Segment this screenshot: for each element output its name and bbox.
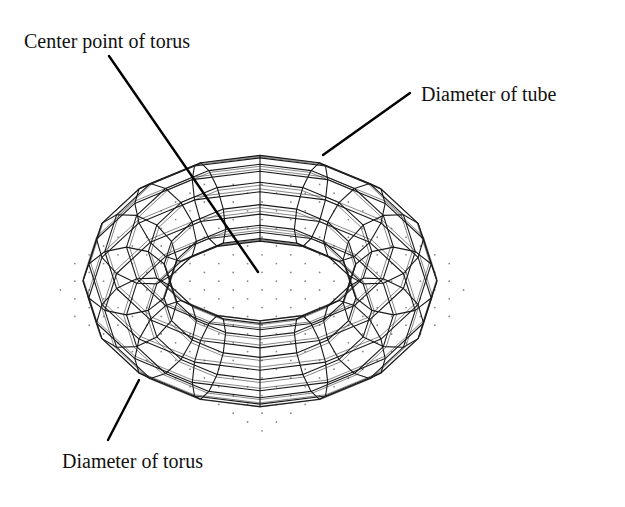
torus-diameter-leader-line <box>108 380 139 440</box>
tube-diameter-leader-line <box>323 93 410 155</box>
tube-diameter-label: Diameter of tube <box>421 84 557 104</box>
torus-diagram <box>0 0 625 507</box>
torus-wireframe <box>83 155 437 407</box>
center-point-leader-line <box>109 56 258 272</box>
torus-diameter-label: Diameter of torus <box>62 451 203 471</box>
center-point-label: Center point of torus <box>24 31 190 51</box>
